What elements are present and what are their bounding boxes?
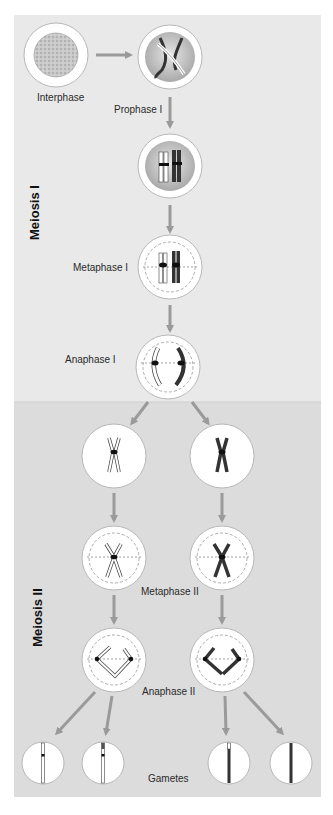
gamete-3 [208, 742, 250, 784]
label-anaphase-1: Anaphase I [65, 354, 116, 365]
prophase-1-cell [138, 25, 202, 89]
centromere-icon [203, 657, 208, 662]
anaphase-2-cell-right [190, 628, 254, 692]
centromere-icon [102, 754, 105, 757]
chromosome-dark-icon [290, 743, 293, 783]
gamete-2 [82, 742, 124, 784]
label-prophase-1: Prophase I [114, 104, 162, 115]
anaphase-2-cell-left [82, 628, 146, 692]
metaphase-1-cell [138, 235, 202, 299]
interphase-cell [24, 23, 88, 87]
centromere-icon [42, 754, 45, 757]
prophase-1-tetrad-cell [138, 134, 202, 198]
daughter-cell-right [190, 424, 254, 488]
label-gametes: Gametes [148, 773, 189, 784]
centromere-icon [111, 450, 118, 455]
chromosome-light-icon [164, 152, 168, 182]
label-meiosis-2: Meiosis II [30, 583, 45, 653]
chromosome-light-icon [159, 152, 163, 182]
centromere-icon [178, 361, 185, 366]
centromere-icon [159, 263, 167, 268]
meiosis-2-panel [14, 402, 321, 797]
centromere-icon [237, 657, 242, 662]
gamete-4 [270, 742, 312, 784]
chromosome-light-icon [159, 253, 163, 283]
centromere-icon [172, 263, 180, 268]
gamete-1 [22, 742, 64, 784]
daughter-cell-left [82, 424, 146, 488]
label-anaphase-2: Anaphase II [142, 686, 195, 697]
label-metaphase-1: Metaphase I [73, 262, 128, 273]
label-meiosis-1: Meiosis I [27, 183, 42, 243]
metaphase-2-cell-right [190, 526, 254, 590]
chromosome-dark-icon [177, 150, 181, 182]
centromere-icon [172, 162, 182, 165]
label-interphase: Interphase [37, 92, 84, 103]
centromere-icon [129, 657, 134, 662]
centromere-icon [219, 450, 226, 455]
arrow-gamete-3 [225, 696, 226, 733]
centromere-icon [111, 555, 118, 560]
chromosome-dark-icon [172, 150, 176, 182]
chromosome-light-icon [42, 743, 45, 783]
centromere-icon [219, 555, 226, 560]
nucleus-icon [34, 33, 78, 77]
anaphase-1-cell [136, 335, 200, 399]
centromere-icon [159, 163, 169, 166]
label-metaphase-2: Metaphase II [141, 586, 199, 597]
centromere-icon [152, 361, 159, 366]
chromosome-light-icon [164, 253, 168, 283]
metaphase-2-cell-left [82, 526, 146, 590]
centromere-icon [95, 657, 100, 662]
